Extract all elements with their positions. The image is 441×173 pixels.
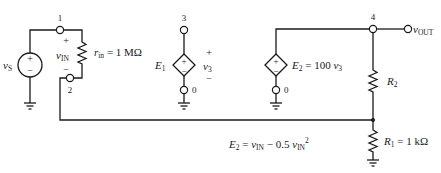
v3-plus-sign: + bbox=[206, 47, 212, 58]
resistor-r1 bbox=[369, 128, 377, 160]
vin-minus-sign: − bbox=[63, 64, 69, 75]
junction-dot bbox=[371, 118, 375, 122]
circuit-diagram: + − vS 1 2 rin = 1 MΩ + vIN − + − 3 0 E1… bbox=[0, 0, 441, 173]
vout-label: vOUT bbox=[413, 23, 434, 37]
node-3-label: 3 bbox=[182, 13, 187, 23]
node-4-label: 4 bbox=[371, 12, 376, 22]
ground-icon bbox=[178, 103, 190, 109]
e1-plus-sign: + bbox=[181, 56, 186, 66]
r2-label: R2 bbox=[386, 75, 398, 89]
vs-minus-sign: − bbox=[27, 65, 33, 76]
vin-label: vIN bbox=[56, 49, 69, 63]
vin-plus-sign: + bbox=[63, 35, 69, 46]
rin-label: rin = 1 MΩ bbox=[94, 46, 142, 60]
node-3-terminal bbox=[180, 26, 187, 33]
e1-minus-sign: − bbox=[181, 66, 186, 76]
node-2-terminal bbox=[66, 74, 73, 81]
vs-label: vS bbox=[3, 59, 12, 73]
e2-label: E2 = 100 v3 bbox=[291, 59, 342, 73]
ground-icon bbox=[24, 103, 36, 109]
nonlinear-equation: E2 = vIN − 0.5 vIN2 bbox=[228, 136, 309, 152]
node-1-label: 1 bbox=[58, 13, 63, 23]
e1-label: E1 bbox=[154, 59, 166, 73]
node-0-label-e1: 0 bbox=[192, 85, 197, 95]
vs-plus-sign: + bbox=[27, 53, 33, 64]
node-4-terminal bbox=[369, 25, 376, 32]
resistor-rin bbox=[78, 40, 86, 66]
voltage-source-vs: + − bbox=[18, 53, 42, 77]
e2-minus-sign: − bbox=[273, 66, 278, 76]
v3-label: v3 bbox=[203, 60, 212, 74]
v3-minus-sign: − bbox=[206, 73, 212, 84]
node-1-terminal bbox=[56, 26, 63, 33]
e2-plus-sign: + bbox=[273, 56, 278, 66]
output-terminal bbox=[404, 25, 411, 32]
node-0-label-e2: 0 bbox=[284, 85, 289, 95]
resistor-r2 bbox=[369, 33, 377, 128]
node-0-terminal-e2 bbox=[272, 86, 279, 93]
node-0-terminal-e1 bbox=[180, 86, 187, 93]
input-loop-wires bbox=[30, 30, 373, 120]
ground-icon bbox=[367, 160, 379, 166]
node-2-label: 2 bbox=[68, 85, 73, 95]
r1-label: R1 = 1 kΩ bbox=[383, 135, 428, 149]
ground-icon bbox=[270, 103, 282, 109]
